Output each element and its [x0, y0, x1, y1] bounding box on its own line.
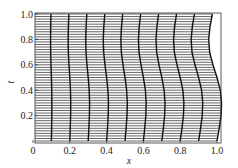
chart: 0.20.40.60.81.0 00.20.40.60.81.0 x t	[0, 0, 238, 168]
mesh-curve	[51, 14, 52, 141]
y-tick-label: 0.2	[21, 110, 34, 121]
y-axis-label: t	[5, 80, 16, 83]
x-tick-label: 0.6	[137, 145, 150, 156]
x-tick-label: 0.2	[64, 145, 77, 156]
y-tick-label: 1.0	[21, 9, 34, 20]
y-tick-label: 0.4	[21, 85, 34, 96]
x-tick-label: 0	[31, 145, 36, 156]
x-tick-label: 0.4	[100, 145, 113, 156]
y-tick-label: 0.6	[21, 59, 34, 70]
x-axis-label: x	[126, 155, 132, 166]
x-tick-label: 1.0	[211, 145, 224, 156]
horizontal-mesh-lines	[35, 14, 221, 141]
x-axis-ticks: 00.20.40.60.81.0	[31, 140, 224, 156]
x-tick-label: 0.8	[174, 145, 187, 156]
y-tick-label: 0.8	[21, 34, 34, 45]
